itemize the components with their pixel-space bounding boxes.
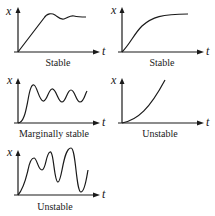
x-axis-label: t [206, 115, 210, 129]
y-axis-arrow-icon [16, 150, 21, 156]
y-axis-arrow-icon [16, 78, 21, 84]
y-axis-arrow-icon [120, 7, 125, 13]
response-curve [122, 80, 165, 123]
response-curve [18, 14, 86, 52]
caption: Stable [46, 57, 72, 68]
response-curve [122, 14, 188, 52]
x-axis-label: t [102, 44, 106, 58]
x-axis-label: t [102, 187, 106, 201]
panel-unstable-growth: x t Unstable [110, 73, 210, 139]
x-axis-arrow-icon [93, 121, 100, 126]
panel-stable-overshoot: x t Stable [5, 4, 106, 68]
caption: Unstable [142, 128, 178, 139]
caption: Unstable [37, 201, 73, 212]
stability-diagram: x t Stable x t Stable x t Marginally sta… [0, 0, 215, 216]
y-axis-label: x [6, 73, 13, 87]
panel-unstable-oscillation: x t Unstable [6, 145, 106, 212]
y-axis-arrow-icon [16, 7, 21, 13]
x-axis-arrow-icon [93, 50, 100, 55]
y-axis-label: x [5, 4, 12, 18]
y-axis-label: x [110, 73, 117, 87]
y-axis-arrow-icon [120, 78, 125, 84]
x-axis-label: t [102, 115, 106, 129]
response-curve [18, 85, 87, 123]
panel-stable-smooth: x t Stable [110, 3, 210, 68]
panel-marginally-stable: x t Marginally stable [6, 73, 106, 139]
x-axis-label: t [206, 44, 210, 58]
caption: Stable [150, 57, 176, 68]
response-curve [18, 148, 88, 195]
y-axis-label: x [6, 145, 13, 159]
caption: Marginally stable [19, 128, 90, 139]
x-axis-arrow-icon [197, 121, 204, 126]
y-axis-label: x [110, 3, 117, 17]
x-axis-arrow-icon [93, 193, 100, 198]
x-axis-arrow-icon [197, 50, 204, 55]
